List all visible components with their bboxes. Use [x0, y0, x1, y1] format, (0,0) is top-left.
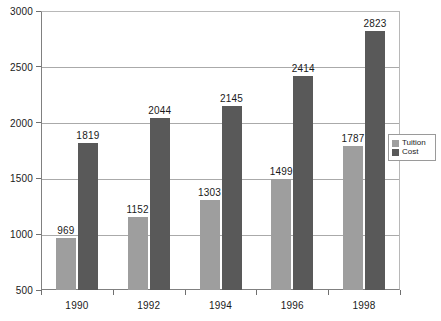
x-axis-tick-mark — [400, 290, 401, 295]
bar-tuition-1996 — [271, 179, 291, 290]
x-axis-tick-label: 1994 — [209, 300, 232, 311]
bar-value-label: 969 — [57, 225, 74, 236]
bar-tuition-1990 — [56, 238, 76, 290]
bar-value-label: 1787 — [342, 133, 365, 144]
x-axis-tick-label: 1998 — [353, 300, 376, 311]
bar-cost-1992 — [150, 118, 170, 290]
legend-item-cost: Cost — [392, 148, 432, 156]
x-axis-labels: 19901992199419961998 — [41, 290, 400, 320]
y-axis-tick-label: 500 — [16, 285, 33, 296]
x-axis-tick-label: 1996 — [281, 300, 304, 311]
bar-cost-1998 — [365, 31, 385, 290]
bar-value-label: 1819 — [76, 130, 99, 141]
bar-chart: 50010001500200025003000 9691819115220441… — [0, 0, 441, 321]
y-axis-tick-label: 2000 — [10, 117, 33, 128]
x-axis-tick-mark — [328, 290, 329, 295]
x-axis-tick-label: 1992 — [137, 300, 160, 311]
bar-tuition-1998 — [343, 146, 363, 290]
bar-value-label: 2414 — [292, 63, 315, 74]
bar-cost-1990 — [78, 143, 98, 290]
bar-cost-1994 — [222, 106, 242, 290]
legend-label-cost: Cost — [402, 148, 418, 156]
legend: Tuition Cost — [388, 134, 436, 161]
legend-swatch-tuition-icon — [392, 140, 399, 147]
x-axis-tick-mark — [256, 290, 257, 295]
x-axis-tick-label: 1990 — [65, 300, 88, 311]
bar-tuition-1992 — [128, 217, 148, 290]
bar-value-label: 2823 — [364, 18, 387, 29]
y-axis-tick-label: 2500 — [10, 61, 33, 72]
x-axis-tick-mark — [185, 290, 186, 295]
legend-label-tuition: Tuition — [402, 139, 426, 147]
legend-item-tuition: Tuition — [392, 139, 432, 147]
bar-cost-1996 — [293, 76, 313, 290]
bar-value-label: 1303 — [198, 187, 221, 198]
y-axis-tick-label: 1000 — [10, 229, 33, 240]
bar-value-label: 2145 — [220, 93, 243, 104]
legend-swatch-cost-icon — [392, 149, 399, 156]
bar-value-label: 2044 — [148, 105, 171, 116]
bar-tuition-1994 — [200, 200, 220, 290]
y-axis-tick-label: 1500 — [10, 173, 33, 184]
bar-value-label: 1152 — [127, 204, 149, 215]
x-axis-tick-mark — [41, 290, 42, 295]
y-axis-tick-label: 3000 — [10, 6, 33, 17]
bars-layer: 969181911522044130321451499241417872823 — [41, 11, 400, 290]
bar-value-label: 1499 — [270, 166, 293, 177]
x-axis-tick-mark — [113, 290, 114, 295]
